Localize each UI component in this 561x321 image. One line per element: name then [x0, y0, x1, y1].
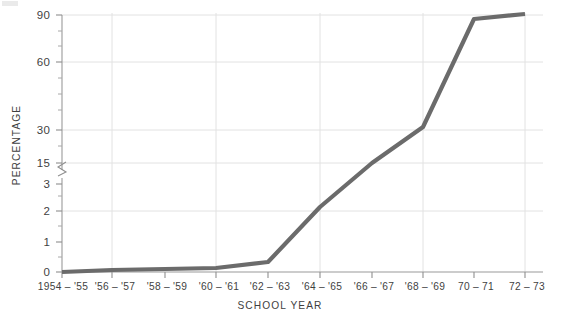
x-tick-label-62-63: '62 – '63	[250, 281, 291, 292]
line-chart: 90 60 30 15 3 2 1 0 1954 – '55 '56 – '57…	[0, 0, 561, 321]
y-tick-label-60: 60	[37, 56, 50, 68]
x-tick-label-64-65: '64 – '65	[302, 281, 343, 292]
x-tickmarks	[62, 272, 525, 278]
horizontal-gridlines	[62, 15, 543, 211]
x-axis-title: SCHOOL YEAR	[237, 300, 322, 311]
y-tick-labels: 90 60 30 15 3 2 1 0	[37, 9, 50, 278]
data-series-line	[62, 14, 525, 272]
y-tick-label-15: 15	[37, 157, 50, 169]
y-tick-label-0: 0	[43, 266, 50, 278]
y-tick-label-90: 90	[37, 9, 50, 21]
vertical-gridlines	[112, 13, 525, 272]
chart-container: 90 60 30 15 3 2 1 0 1954 – '55 '56 – '57…	[0, 0, 561, 321]
x-tick-label-68-69: '68 – '69	[405, 281, 446, 292]
x-tick-labels: 1954 – '55 '56 – '57 '58 – '59 '60 – '61…	[38, 281, 545, 292]
y-tick-label-1: 1	[43, 236, 50, 248]
y-tick-label-30: 30	[37, 124, 50, 136]
y-minor-tickmarks	[58, 31, 62, 257]
x-tick-label-66-67: '66 – '67	[354, 281, 395, 292]
y-tick-label-3: 3	[43, 178, 50, 190]
x-tick-label-70-71: 70 – 71	[458, 281, 494, 292]
y-tick-label-2: 2	[43, 205, 50, 217]
axis-break-icon	[58, 162, 66, 176]
x-tick-label-60-61: '60 – '61	[199, 281, 240, 292]
x-tick-label-56-57: '56 – '57	[95, 281, 136, 292]
y-axis-title: PERCENTAGE	[11, 105, 22, 185]
y-major-tickmarks	[56, 15, 62, 272]
x-tick-label-58-59: '58 – '59	[147, 281, 188, 292]
y-axis	[58, 15, 66, 272]
x-tick-label-1954-55: 1954 – '55	[38, 281, 88, 292]
x-tick-label-72-73: 72 – 73	[509, 281, 545, 292]
